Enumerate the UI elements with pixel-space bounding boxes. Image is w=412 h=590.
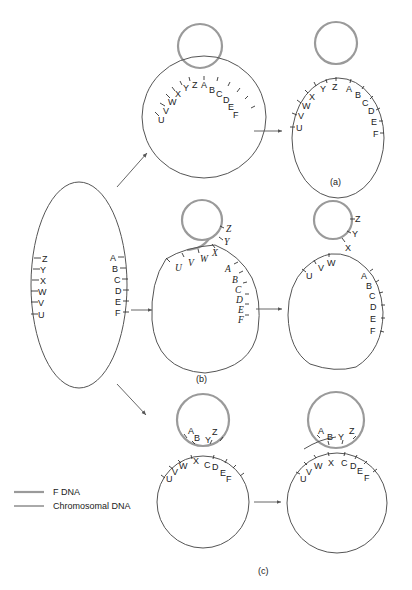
marker-x: X bbox=[328, 458, 334, 468]
marker-a: A bbox=[318, 426, 324, 436]
f-loop-c bbox=[177, 394, 229, 446]
marker-u: U bbox=[296, 123, 303, 133]
marker-f: F bbox=[370, 326, 376, 336]
marker-f: F bbox=[237, 315, 244, 325]
marker-y: Y bbox=[40, 265, 46, 275]
marker-z: Z bbox=[212, 427, 218, 437]
panel-a-result: U V W X Y Z A B C D E F bbox=[290, 22, 384, 198]
marker-z: Z bbox=[226, 224, 232, 234]
marker-f: F bbox=[373, 129, 379, 139]
marker-v: V bbox=[38, 298, 44, 308]
marker-c: C bbox=[341, 458, 348, 468]
marker-e: E bbox=[371, 117, 377, 127]
panel-b-intermediate: U V W X Y Z A B C D E F bbox=[152, 200, 259, 373]
marker-a: A bbox=[346, 84, 352, 94]
marker-c: C bbox=[369, 291, 376, 301]
marker-z: Z bbox=[332, 82, 338, 92]
marker-b: B bbox=[366, 281, 372, 291]
marker-v: V bbox=[172, 467, 178, 477]
marker-y: Y bbox=[183, 83, 189, 93]
marker-v: V bbox=[306, 467, 312, 477]
chromosome-c-result bbox=[287, 453, 387, 553]
marker-f: F bbox=[226, 474, 232, 484]
marker-v: V bbox=[298, 111, 304, 121]
marker-f: F bbox=[233, 110, 239, 120]
legend: F DNA Chromosomal DNA bbox=[14, 487, 131, 511]
marker-x: X bbox=[40, 276, 46, 286]
marker-w: W bbox=[200, 254, 209, 264]
marker-d: D bbox=[235, 295, 243, 305]
f-prime-plasmid-c bbox=[308, 392, 364, 448]
marker-v: V bbox=[318, 263, 324, 273]
marker-a: A bbox=[201, 80, 207, 90]
panel-c-result: A B Y Z U V W X C D E F bbox=[287, 392, 387, 553]
marker-d: D bbox=[370, 302, 377, 312]
marker-z: Z bbox=[42, 254, 48, 264]
legend-chromosomal-dna-label: Chromosomal DNA bbox=[53, 501, 131, 511]
marker-z: Z bbox=[192, 80, 198, 90]
marker-c: C bbox=[204, 460, 211, 470]
marker-a: A bbox=[224, 264, 231, 274]
marker-z: Z bbox=[349, 426, 355, 436]
arrow-to-c bbox=[117, 384, 146, 415]
hfr-chromosome: Z Y X W V U A B C D E F bbox=[31, 182, 129, 388]
marker-e: E bbox=[115, 297, 121, 307]
marker-d: D bbox=[115, 286, 122, 296]
marker-e: E bbox=[357, 466, 363, 476]
marker-w: W bbox=[327, 258, 336, 268]
panel-b-result: Z Y X U V W A B C D E F bbox=[288, 201, 385, 369]
marker-a: A bbox=[361, 271, 367, 281]
marker-x: X bbox=[175, 89, 181, 99]
marker-w: W bbox=[314, 461, 323, 471]
marker-u: U bbox=[306, 271, 313, 281]
marker-f: F bbox=[115, 308, 121, 318]
marker-x: X bbox=[309, 92, 315, 102]
marker-z: Z bbox=[355, 214, 361, 224]
marker-y: Y bbox=[338, 432, 344, 442]
marker-w: W bbox=[302, 101, 311, 111]
marker-x: X bbox=[345, 243, 351, 253]
marker-c: C bbox=[114, 275, 121, 285]
marker-d: D bbox=[368, 106, 375, 116]
chromosome-b-result bbox=[288, 254, 383, 370]
chromosome-c-mid bbox=[157, 456, 249, 548]
marker-c: C bbox=[216, 89, 223, 99]
f-loop-b bbox=[182, 200, 222, 240]
panel-c-intermediate: A B Y Z U V W X C D E F bbox=[157, 394, 249, 548]
marker-u: U bbox=[175, 263, 183, 273]
marker-b: B bbox=[209, 85, 215, 95]
marker-x: X bbox=[193, 456, 199, 466]
marker-y: Y bbox=[205, 435, 211, 445]
marker-a: A bbox=[110, 253, 116, 263]
marker-w: W bbox=[38, 287, 47, 297]
marker-v: V bbox=[163, 106, 169, 116]
marker-c: C bbox=[235, 285, 242, 295]
panel-a-intermediate: U V W X Y Z A B C D E F bbox=[142, 24, 266, 178]
marker-b: B bbox=[194, 433, 200, 443]
marker-d: D bbox=[212, 462, 219, 472]
f-factor-excision-diagram: Z Y X W V U A B C D E F bbox=[0, 0, 412, 590]
marker-u: U bbox=[38, 310, 45, 320]
marker-w: W bbox=[179, 461, 188, 471]
marker-b: B bbox=[112, 264, 118, 274]
panel-label-c: (c) bbox=[258, 566, 269, 576]
f-loop-a bbox=[178, 24, 222, 68]
panel-label-a: (a) bbox=[330, 177, 341, 187]
marker-f: F bbox=[364, 473, 370, 483]
marker-b: B bbox=[327, 432, 333, 442]
f-prime-plasmid-b bbox=[314, 201, 352, 239]
marker-x: X bbox=[211, 248, 219, 258]
marker-b: B bbox=[355, 90, 361, 100]
marker-b: B bbox=[232, 275, 238, 285]
marker-e: E bbox=[237, 305, 244, 315]
panel-label-b: (b) bbox=[196, 374, 207, 384]
marker-y: Y bbox=[352, 229, 358, 239]
marker-v: V bbox=[188, 258, 195, 268]
marker-e: E bbox=[370, 314, 376, 324]
marker-d: D bbox=[350, 461, 357, 471]
marker-y: Y bbox=[224, 237, 231, 247]
marker-y: Y bbox=[320, 84, 326, 94]
marker-u: U bbox=[158, 115, 165, 125]
f-plasmid-a bbox=[315, 22, 357, 64]
arrow-to-a bbox=[117, 153, 147, 187]
